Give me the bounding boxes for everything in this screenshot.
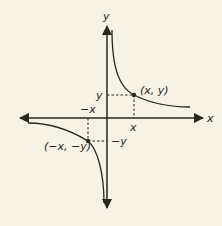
negx-tick-label: −x [80,103,96,116]
y-tick-label: y [95,89,103,102]
x-axis-label: x [206,112,214,125]
y-axis-label: y [102,10,110,23]
negy-tick-label: −y [111,135,127,148]
point-x-y-label: (x, y) [140,84,169,97]
x-tick-label: x [129,121,137,134]
odd-function-diagram: y x (x, y) y x −x −y (−x, −y) [0,0,222,226]
point-negx-negy-label: (−x, −y) [44,140,91,153]
curve-branch-lower-left [28,123,104,203]
point-x-y [132,93,136,97]
